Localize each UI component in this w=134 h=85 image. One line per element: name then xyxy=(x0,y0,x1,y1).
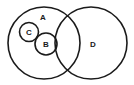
venn-diagram: A D C B xyxy=(0,0,134,85)
label-d: D xyxy=(90,40,96,49)
label-b: B xyxy=(43,40,49,49)
label-c: C xyxy=(26,28,32,37)
label-a: A xyxy=(40,13,46,22)
